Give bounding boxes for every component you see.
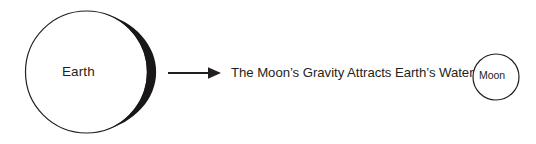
gravity-arrow-head bbox=[208, 67, 221, 79]
diagram-canvas: Earth The Moon’s Gravity Attracts Earth’… bbox=[0, 0, 536, 144]
statement-text: The Moon’s Gravity Attracts Earth’s Wate… bbox=[231, 65, 474, 80]
moon-label: Moon bbox=[479, 69, 505, 81]
earth-label: Earth bbox=[62, 64, 95, 79]
